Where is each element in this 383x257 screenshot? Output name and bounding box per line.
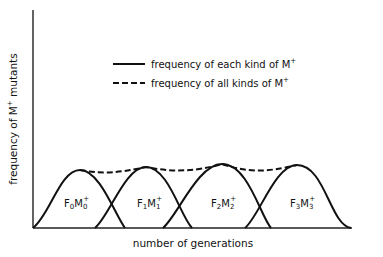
legend-dashed-label: frequency of all kinds of M+ <box>151 76 289 89</box>
diagram-canvas: frequency of M+ mutants number of genera… <box>0 0 383 257</box>
legend-solid-label: frequency of each kind of M+ <box>151 57 296 70</box>
legend: frequency of each kind of M+ frequency o… <box>113 57 296 89</box>
x-axis-label: number of generations <box>133 237 253 249</box>
label-f3m3: F3M3+ <box>290 195 315 211</box>
curve-f1m1 <box>95 167 192 228</box>
label-f2m2: F2M2+ <box>211 195 236 211</box>
label-f0m0: F0M0+ <box>64 195 89 211</box>
curve-f2m2 <box>163 164 271 228</box>
y-axis-label: frequency of M+ mutants <box>6 53 19 184</box>
curve-f3m3 <box>245 165 351 228</box>
curve-all-kinds-envelope <box>80 164 297 172</box>
label-f1m1: F1M1+ <box>137 195 162 211</box>
